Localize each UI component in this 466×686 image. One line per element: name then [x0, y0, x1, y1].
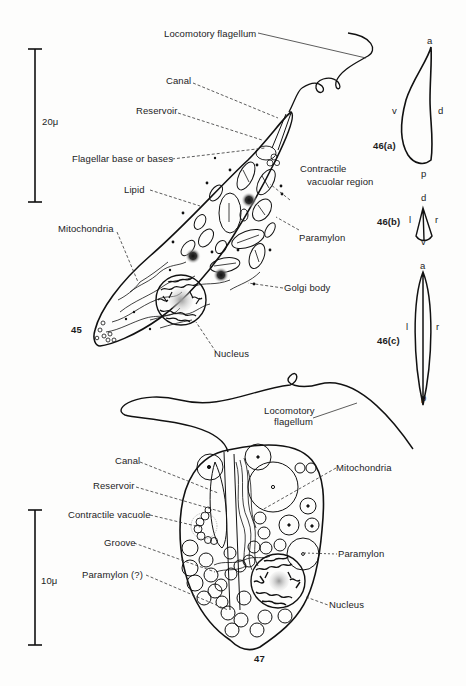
axis-46b-right: r	[435, 214, 438, 225]
label-nucleus-45: Nucleus	[214, 348, 249, 359]
label-contractile-vacuolar-45-line1: Contractile	[300, 163, 347, 174]
scale-label-10u: 10μ	[41, 575, 57, 586]
label-contractile-vacuole-47: Contractile vacuole	[68, 509, 151, 520]
label-mitochondria-47: Mitochondria	[336, 462, 392, 473]
axis-46c-posterior: p	[421, 392, 426, 403]
euglena-diagram-page: 20μ Locomotory flagellum Canal Reservoir…	[0, 0, 466, 686]
axis-46c-right: r	[436, 321, 439, 332]
scale-bar-20u	[28, 49, 42, 202]
label-paramylon-q-47: Paramylon (?)	[82, 569, 143, 580]
label-canal-47: Canal	[115, 455, 140, 466]
outline-46a	[402, 47, 432, 163]
label-contractile-vacuolar-45-line2: vacuolar region	[307, 176, 373, 187]
label-locomotory-flagellum-45: Locomotory flagellum	[164, 28, 256, 39]
axis-46a-ventral: v	[392, 105, 397, 116]
scale-bar-10u	[28, 510, 42, 645]
label-canal-45: Canal	[166, 75, 191, 86]
axis-46a-posterior: p	[421, 168, 426, 179]
axis-46b-dorsal: d	[421, 192, 426, 203]
axis-46c-anterior: a	[420, 260, 425, 271]
label-golgi-body-45: Golgi body	[284, 282, 330, 293]
figure-number-46b: 46(b)	[377, 216, 400, 227]
scale-label-20u: 20μ	[42, 116, 58, 127]
label-locomotory-flagellum-47-line1: Locomotory	[264, 405, 315, 416]
label-locomotory-flagellum-47-line2: flagellum	[274, 416, 313, 427]
label-reservoir-45: Reservoir	[136, 105, 178, 116]
label-lipid-45: Lipid	[124, 184, 145, 195]
figure-number-45: 45	[71, 324, 82, 335]
axis-46a-anterior: a	[427, 35, 432, 46]
label-paramylon-47: Paramylon	[338, 548, 384, 559]
leader-lines-45	[117, 33, 366, 352]
axis-46a-dorsal: d	[438, 105, 443, 116]
label-groove-47: Groove	[104, 537, 136, 548]
nucleus-45	[156, 275, 206, 325]
label-reservoir-47: Reservoir	[93, 480, 135, 491]
axis-46b-ventral: v	[421, 236, 426, 247]
axis-46b-left: l	[409, 214, 411, 225]
label-nucleus-47: Nucleus	[329, 599, 364, 610]
label-paramylon-45: Paramylon	[299, 232, 345, 243]
label-flagellar-base-45: Flagellar base or bases	[72, 153, 173, 164]
outline-46c	[415, 272, 431, 405]
axis-46c-left: l	[406, 321, 408, 332]
nucleus-47	[251, 554, 305, 608]
label-mitochondria-45: Mitochondria	[58, 223, 114, 234]
figure-number-46a: 46(a)	[373, 140, 396, 151]
figure-number-46c: 46(c)	[377, 335, 400, 346]
figure-number-47: 47	[254, 653, 265, 664]
